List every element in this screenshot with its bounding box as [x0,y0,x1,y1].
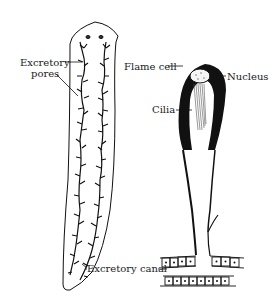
label-excretory-pores-line2: pores [31,68,59,79]
flame-cell [179,64,226,256]
excretory-canal [160,256,244,286]
label-nucleus: Nucleus [227,71,268,82]
nucleus-shape [190,69,210,83]
label-excretory-pores-line1: Excretory [20,57,70,68]
right-excretory-tubule [80,42,110,280]
diagram-figure [0,0,278,304]
label-cilia: Cilia [152,104,175,115]
cilia-shape [194,84,206,130]
label-excretory-canal: Excretory canal [87,263,167,274]
label-flame-cell: Flame cell [124,61,177,72]
left-excretory-tubule [68,42,89,275]
